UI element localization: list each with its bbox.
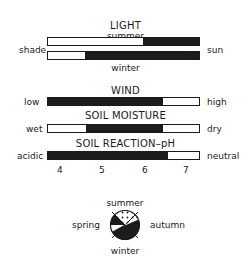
wind-left-label: low <box>24 97 39 107</box>
ph-tick-7: 7 <box>183 165 189 175</box>
wind-bar <box>47 97 200 106</box>
light-left-label: shade <box>19 45 46 55</box>
soil-moisture-bar <box>47 124 200 133</box>
ph-tick-6: 6 <box>142 165 148 175</box>
ph-tick-4: 4 <box>57 165 63 175</box>
soil-ph-title: SOIL REACTION–pH <box>0 138 251 149</box>
soil-moisture-left-label: wet <box>26 124 42 134</box>
wind-title: WIND <box>0 85 251 96</box>
season-wheel-icon <box>105 205 145 245</box>
season-autumn-label: autumn <box>150 220 185 230</box>
light-summer-bar <box>47 37 200 46</box>
soil-ph-bar <box>47 151 200 160</box>
light-title: LIGHT <box>0 20 251 31</box>
season-spring-label: spring <box>72 220 100 230</box>
soil-moisture-title: SOIL MOISTURE <box>0 110 251 121</box>
light-winter-fill <box>85 52 199 59</box>
wind-right-label: high <box>207 97 227 107</box>
soil-ph-left-label: acidic <box>17 151 43 161</box>
soil-moisture-right-label: dry <box>207 124 222 134</box>
season-winter-label: winter <box>100 246 150 256</box>
soil-ph-fill <box>48 152 168 159</box>
light-winter-label: winter <box>0 63 251 73</box>
wind-fill <box>48 98 163 105</box>
soil-moisture-fill <box>86 125 163 132</box>
light-winter-bar <box>47 51 200 60</box>
light-summer-fill <box>143 38 199 45</box>
ph-tick-5: 5 <box>99 165 105 175</box>
light-right-label: sun <box>207 45 223 55</box>
soil-ph-right-label: neutral <box>207 151 239 161</box>
